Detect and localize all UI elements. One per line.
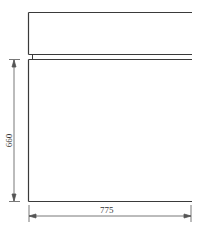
width-dimension-label: 775	[100, 206, 114, 215]
height-dimension-label: 660	[5, 134, 14, 148]
upper-panel	[29, 13, 193, 55]
lower-panel	[29, 60, 193, 202]
vertical-dimension	[9, 60, 20, 202]
technical-drawing: 660 775	[0, 0, 198, 233]
